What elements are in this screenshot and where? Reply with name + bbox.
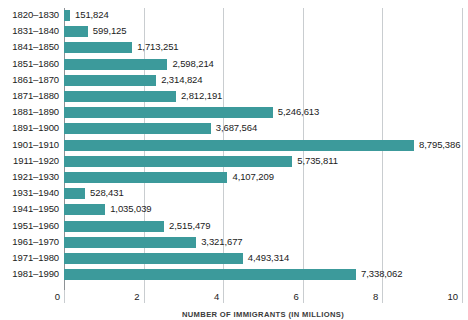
bar xyxy=(64,42,132,53)
x-tick-2 xyxy=(144,290,145,303)
bar-row: 2,515,479 xyxy=(64,219,462,235)
bar xyxy=(64,140,414,151)
bar-rows: 151,824599,1251,713,2512,598,2142,314,82… xyxy=(64,8,462,290)
bar xyxy=(64,123,211,134)
bar-row: 151,824 xyxy=(64,8,462,24)
category-label: 1871–1880 xyxy=(0,90,59,102)
bar-value-label: 151,824 xyxy=(75,9,109,21)
bar-value-label: 2,812,191 xyxy=(181,90,222,102)
x-tick-label: 8 xyxy=(373,291,382,303)
bar xyxy=(64,188,85,199)
bar xyxy=(64,204,105,215)
category-label: 1831–1840 xyxy=(0,25,59,37)
bar-value-label: 5,735,811 xyxy=(297,155,338,167)
bar xyxy=(64,237,196,248)
category-label: 1820–1830 xyxy=(0,9,59,21)
bar-value-label: 1,035,039 xyxy=(110,203,151,215)
bar-value-label: 528,431 xyxy=(90,187,124,199)
category-label: 1961–1970 xyxy=(0,236,59,248)
bar-value-label: 1,713,251 xyxy=(137,41,178,53)
bar-row: 5,735,811 xyxy=(64,154,462,170)
bar-row: 8,795,386 xyxy=(64,138,462,154)
bar xyxy=(64,253,243,264)
bar-row: 5,246,613 xyxy=(64,105,462,121)
gridline-10 xyxy=(462,8,463,290)
category-axis-labels: 1820–18301831–18401841–18501851–18601861… xyxy=(0,8,59,290)
x-tick-0 xyxy=(64,290,65,303)
bar-row: 528,431 xyxy=(64,186,462,202)
x-tick-label: 2 xyxy=(134,291,143,303)
category-label: 1891–1900 xyxy=(0,122,59,134)
bar-value-label: 3,321,677 xyxy=(201,236,242,248)
bar xyxy=(64,75,156,86)
x-tick-10 xyxy=(462,290,463,303)
x-tick-label: 4 xyxy=(214,291,223,303)
category-label: 1941–1950 xyxy=(0,203,59,215)
category-label: 1881–1890 xyxy=(0,106,59,118)
bar-value-label: 4,107,209 xyxy=(232,171,273,183)
bar-row: 7,338,062 xyxy=(64,267,462,283)
bar xyxy=(64,221,164,232)
category-label: 1921–1930 xyxy=(0,171,59,183)
bar-value-label: 2,515,479 xyxy=(169,220,210,232)
bar-row: 4,107,209 xyxy=(64,170,462,186)
bar-value-label: 599,125 xyxy=(93,25,127,37)
x-tick-6 xyxy=(303,290,304,303)
plot-area: 151,824599,1251,713,2512,598,2142,314,82… xyxy=(64,8,462,290)
category-label: 1951–1960 xyxy=(0,220,59,232)
bar-value-label: 2,314,824 xyxy=(161,74,202,86)
category-label: 1901–1910 xyxy=(0,139,59,151)
category-label: 1911–1920 xyxy=(0,155,59,167)
category-label: 1841–1850 xyxy=(0,41,59,53)
bar-row: 2,812,191 xyxy=(64,89,462,105)
bar-row: 2,314,824 xyxy=(64,73,462,89)
category-label: 1981–1990 xyxy=(0,268,59,280)
bar-row: 3,687,564 xyxy=(64,121,462,137)
x-tick-label: 0 xyxy=(55,291,64,303)
x-axis-title: NUMBER OF IMMIGRANTS (IN MILLIONS) xyxy=(64,309,462,320)
x-tick-label: 10 xyxy=(447,291,462,303)
bar-row: 2,598,214 xyxy=(64,57,462,73)
bar-value-label: 3,687,564 xyxy=(216,122,257,134)
x-tick-4 xyxy=(223,290,224,303)
category-label: 1851–1860 xyxy=(0,58,59,70)
x-axis-line xyxy=(64,290,462,291)
bar-row: 3,321,677 xyxy=(64,235,462,251)
category-label: 1931–1940 xyxy=(0,187,59,199)
x-tick-8 xyxy=(382,290,383,303)
bar-row: 4,493,314 xyxy=(64,251,462,267)
x-axis: 0246810 xyxy=(64,290,462,306)
x-tick-label: 6 xyxy=(294,291,303,303)
category-label: 1971–1980 xyxy=(0,252,59,264)
bar xyxy=(64,91,176,102)
bar-row: 599,125 xyxy=(64,24,462,40)
bar-value-label: 7,338,062 xyxy=(361,268,402,280)
bar xyxy=(64,269,356,280)
bar xyxy=(64,156,292,167)
bar xyxy=(64,10,70,21)
bar-value-label: 2,598,214 xyxy=(172,58,213,70)
bar-value-label: 8,795,386 xyxy=(419,139,460,151)
bar xyxy=(64,26,88,37)
bar-row: 1,713,251 xyxy=(64,40,462,56)
bar-value-label: 4,493,314 xyxy=(248,252,289,264)
bar-row: 1,035,039 xyxy=(64,202,462,218)
bar xyxy=(64,172,227,183)
category-label: 1861–1870 xyxy=(0,74,59,86)
bar xyxy=(64,107,273,118)
bar-value-label: 5,246,613 xyxy=(278,106,319,118)
immigration-bar-chart: 1820–18301831–18401841–18501851–18601861… xyxy=(0,0,468,320)
bar xyxy=(64,59,167,70)
